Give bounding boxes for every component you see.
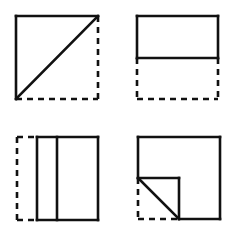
figure-fold-diagonal xyxy=(16,16,98,99)
diagram-svg xyxy=(0,0,231,230)
figure-fold-vertical xyxy=(17,137,98,220)
diagram-canvas xyxy=(0,0,231,230)
solid-edge xyxy=(138,178,179,219)
figure-fold-horizontal xyxy=(137,16,218,99)
figure-fold-corner xyxy=(138,137,220,219)
solid-edge xyxy=(16,16,98,99)
